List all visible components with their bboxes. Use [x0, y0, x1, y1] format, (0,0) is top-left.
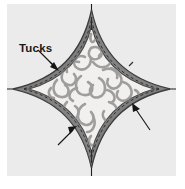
- diagram-panel: Tucks: [7, 4, 176, 176]
- tucks-label: Tucks: [19, 42, 52, 54]
- star-diagram-svg: [7, 4, 176, 176]
- bottom-left-pointer-arrow: [58, 126, 77, 145]
- right-pointer-arrow: [132, 103, 150, 130]
- figure-root: Tucks: [0, 0, 185, 189]
